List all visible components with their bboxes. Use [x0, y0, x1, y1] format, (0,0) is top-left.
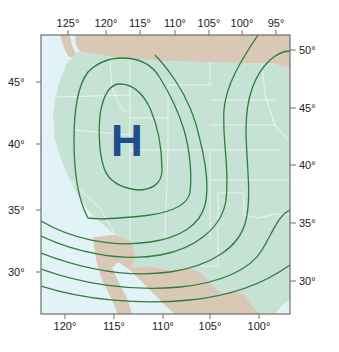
- left-lat-label: 35°: [8, 204, 25, 216]
- left-lat-label: 30°: [8, 266, 25, 278]
- pressure-map: [0, 0, 339, 352]
- right-lat-label: 50°: [299, 44, 316, 56]
- right-lat-label: 45°: [299, 102, 316, 114]
- left-lat-label: 40°: [8, 138, 25, 150]
- bottom-lon-label: 110°: [152, 320, 174, 332]
- left-lat-label: 45°: [8, 76, 25, 88]
- top-lon-label: 125°: [57, 17, 80, 29]
- bottom-lon-label: 115°: [103, 320, 125, 332]
- top-lon-label: 100°: [231, 17, 254, 29]
- top-lon-label: 110°: [164, 17, 186, 29]
- bottom-lon-label: 100°: [248, 320, 271, 332]
- right-lat-label: 35°: [299, 217, 316, 229]
- bottom-lon-label: 120°: [54, 320, 77, 332]
- right-lat-label: 30°: [299, 275, 316, 287]
- bottom-lon-label: 105°: [199, 320, 222, 332]
- top-lon-label: 95°: [268, 17, 285, 29]
- high-pressure-label: H: [111, 119, 143, 163]
- top-lon-label: 115°: [129, 17, 151, 29]
- top-lon-label: 105°: [198, 17, 221, 29]
- top-lon-label: 120°: [95, 17, 118, 29]
- right-lat-label: 40°: [299, 159, 316, 171]
